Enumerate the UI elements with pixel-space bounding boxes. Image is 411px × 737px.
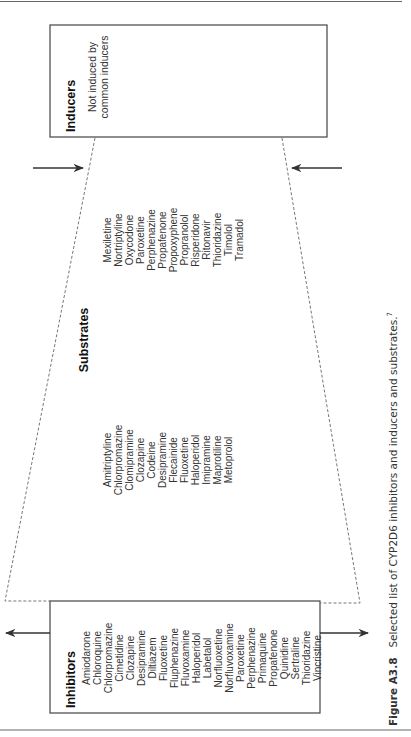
list-item: Chlorpromazine [113, 360, 124, 560]
list-item: Sertraline [290, 608, 301, 708]
list-item: Fluphenazine [169, 608, 180, 708]
list-item: Nortriptyline [113, 140, 124, 340]
list-item: Ritonavir [201, 140, 212, 340]
list-item: Perphenazine [246, 608, 257, 708]
inhibitors-list: Inhibitors Amiodarone Chloroquine Chlorp… [63, 608, 323, 708]
list-item: Oxycodone [124, 140, 135, 340]
list-item: Tramadol [234, 140, 245, 340]
figure-label: Figure A3.8 [387, 658, 399, 726]
substrates-column-2: Mexiletine Nortriptyline Oxycodone Parox… [102, 140, 245, 340]
figure-reference: 7 [386, 312, 394, 316]
list-item: Desipramine [157, 360, 168, 560]
inducers-label-group: Inducers Not induced by common inducers [63, 22, 110, 132]
list-item: Perphenazine [146, 140, 157, 340]
list-item: Imipramine [201, 360, 212, 560]
substrates-header: Substrates [76, 280, 96, 400]
list-item: Fluoxetine [179, 360, 190, 560]
substrates-column-1: Amitriptyline Chlorpromazine Clomipramin… [102, 360, 234, 560]
list-item: Haloperidol [191, 608, 202, 708]
list-item: Thioridazine [301, 608, 312, 708]
list-item: Fluvoxamine [180, 608, 191, 708]
list-item: Clomipramine [124, 360, 135, 560]
list-item: Quinidine [279, 608, 290, 708]
inducers-note-line2: common inducers [98, 22, 110, 132]
list-item: Maprotiline [212, 360, 223, 560]
list-item: Vincristine [312, 608, 323, 708]
list-item: Propranolol [179, 140, 190, 340]
list-item: Diltiazem [147, 608, 158, 708]
figure-caption-text: Selected list of CYP2D6 inhibitors and i… [387, 316, 399, 647]
list-item: Primaquine [257, 608, 268, 708]
list-item: Fluoxetine [158, 608, 169, 708]
substrates-dashed-right [282, 138, 360, 603]
list-item: Metoprolol [223, 360, 234, 560]
list-item: Propoxyphene [168, 140, 179, 340]
list-item: Amitriptyline [102, 360, 113, 560]
list-item: Cimetidine [114, 608, 125, 708]
list-item: Paroxetine [235, 608, 246, 708]
list-item: Paroxetine [135, 140, 146, 340]
list-item: Thioridazine [212, 140, 223, 340]
inducers-title: Inducers [63, 22, 79, 132]
list-item: Amiodarone [81, 608, 92, 708]
list-item: Timolol [223, 140, 234, 340]
substrates-title: Substrates [76, 280, 92, 400]
list-item: Mexiletine [102, 140, 113, 340]
list-item: Chlorpromazine [103, 608, 114, 708]
list-item: Propafenone [268, 608, 279, 708]
list-item: Desipramine [136, 608, 147, 708]
figure-caption: Figure A3.8Selected list of CYP2D6 inhib… [386, 312, 399, 726]
list-item: Chloroquine [92, 608, 103, 708]
list-item: Haloperidol [190, 360, 201, 560]
inducers-note-line1: Not induced by [86, 22, 98, 132]
list-item: Clozapine [125, 608, 136, 708]
list-item: Clozapine [135, 360, 146, 560]
inhibitors-title: Inhibitors [63, 608, 79, 708]
list-item: Propafenone [157, 140, 168, 340]
list-item: Risperidone [190, 140, 201, 340]
list-item: Codeine [146, 360, 157, 560]
list-item: Norfluvoxamine [224, 608, 235, 708]
list-item: Norfluoxetine [213, 608, 224, 708]
list-item: Flecainide [168, 360, 179, 560]
list-item: Labetalol [202, 608, 213, 708]
